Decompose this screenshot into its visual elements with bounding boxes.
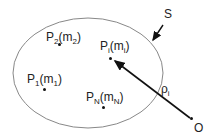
point-pi-dot	[109, 57, 112, 60]
label-surface-s: S	[164, 8, 172, 20]
origin-dot	[190, 117, 193, 120]
point-p1-dot	[43, 88, 46, 91]
point-pn-dot	[102, 106, 105, 109]
label-p2: P2(m2)	[46, 31, 81, 43]
position-vector-arrow	[115, 61, 190, 118]
label-p1: P1(m1)	[27, 73, 62, 85]
diagram-canvas	[0, 0, 213, 139]
label-pi: Pi(mi)	[100, 40, 130, 52]
label-pn: PN(mN)	[86, 91, 124, 103]
surface-pointer-arrow	[153, 25, 163, 40]
label-rho-i: ρi	[161, 83, 170, 95]
label-origin-o: O	[194, 122, 203, 134]
